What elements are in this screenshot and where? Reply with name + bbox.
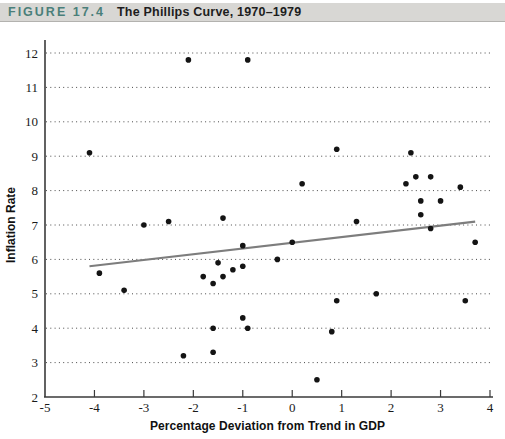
scatter-point: [97, 270, 103, 276]
scatter-point: [245, 325, 251, 331]
scatter-point: [299, 181, 305, 187]
scatter-point: [220, 274, 226, 280]
scatter-point: [334, 298, 340, 304]
scatter-point: [428, 226, 434, 232]
scatter-point: [289, 239, 295, 245]
y-tick-label: 12: [25, 46, 38, 61]
scatter-point: [334, 147, 340, 153]
scatter-point: [230, 267, 236, 273]
figure-17-4: FIGURE 17.4 The Phillips Curve, 1970–197…: [0, 0, 505, 439]
scatter-point: [408, 150, 414, 156]
scatter-point: [215, 260, 221, 266]
x-tick-label: 3: [437, 400, 444, 415]
scatter-point: [141, 222, 147, 228]
x-tick-label: -2: [188, 400, 199, 415]
trend-line: [90, 222, 476, 267]
x-tick-label: -1: [237, 400, 248, 415]
y-tick-label: 4: [32, 321, 39, 336]
x-tick-label: -3: [138, 400, 149, 415]
x-axis-title: Percentage Deviation from Trend in GDP: [45, 419, 490, 433]
x-tick-label: 1: [338, 400, 345, 415]
scatter-point: [354, 219, 360, 225]
y-tick-label: 7: [32, 218, 39, 233]
scatter-point: [240, 263, 246, 269]
x-tick-label: 0: [289, 400, 296, 415]
y-axis-title: Inflation Rate: [4, 160, 18, 290]
scatter-point: [418, 212, 424, 218]
scatter-point: [210, 349, 216, 355]
scatter-point: [181, 353, 187, 359]
scatter-point: [329, 329, 335, 335]
y-tick-label: 6: [32, 252, 39, 267]
scatter-point: [200, 274, 206, 280]
scatter-point: [275, 257, 281, 263]
scatter-point: [373, 291, 379, 297]
y-tick-label: 10: [25, 114, 38, 129]
scatter-point: [220, 215, 226, 221]
y-tick-label: 5: [32, 286, 39, 301]
scatter-point: [245, 57, 251, 63]
scatter-point: [87, 150, 93, 156]
scatter-point: [121, 288, 127, 294]
scatter-point: [428, 174, 434, 180]
phillips-curve-scatter-chart: 23456789101112-5-4-3-2-101234: [0, 0, 505, 439]
scatter-point: [462, 298, 468, 304]
x-tick-label: 4: [487, 400, 494, 415]
scatter-point: [240, 315, 246, 321]
y-tick-label: 2: [32, 390, 39, 405]
scatter-point: [314, 377, 320, 383]
scatter-point: [240, 243, 246, 249]
scatter-point: [458, 184, 464, 190]
y-tick-label: 11: [25, 80, 38, 95]
scatter-point: [438, 198, 444, 204]
scatter-point: [413, 174, 419, 180]
y-tick-label: 9: [32, 149, 39, 164]
scatter-point: [166, 219, 172, 225]
x-tick-label: -5: [40, 400, 51, 415]
scatter-point: [210, 281, 216, 287]
x-tick-label: -4: [89, 400, 100, 415]
scatter-point: [418, 198, 424, 204]
scatter-point: [472, 239, 478, 245]
scatter-point: [403, 181, 409, 187]
scatter-point: [210, 325, 216, 331]
x-tick-label: 2: [388, 400, 395, 415]
y-tick-label: 3: [32, 355, 39, 370]
scatter-point: [186, 57, 192, 63]
y-tick-label: 8: [32, 183, 39, 198]
